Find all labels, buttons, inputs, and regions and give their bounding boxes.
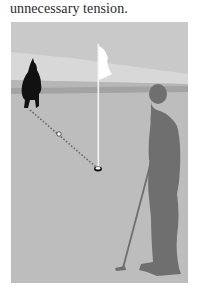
body-text: unnecessary tension. xyxy=(10,0,128,18)
flagstick xyxy=(98,44,100,169)
ball-icon xyxy=(57,132,61,136)
golf-illustration xyxy=(11,22,188,283)
